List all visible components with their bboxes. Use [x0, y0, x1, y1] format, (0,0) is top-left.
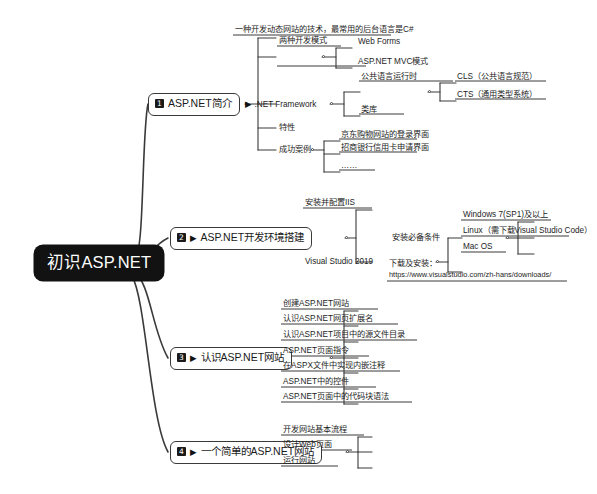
branch-number-badge: 4 [177, 447, 186, 456]
node-class-library[interactable]: 类库 [359, 104, 379, 116]
collapse-dot-clr[interactable] [428, 90, 431, 93]
node-download-install-url[interactable]: https://www.visualstudio.com/zh-hans/dow… [387, 270, 553, 281]
collapse-dot-success-cases[interactable] [311, 148, 314, 151]
node-download-install-label[interactable]: 下载及安装： [387, 258, 439, 270]
flag-icon: ▶ [190, 447, 197, 456]
branch-number-badge: 1 [155, 99, 164, 108]
node-design-web-page[interactable]: 设计Web页面 [281, 439, 334, 451]
branch-node-1[interactable]: 1 ASP.NET简介 [148, 93, 240, 116]
node-dotnet-framework[interactable]: ▶ .NET Framework [243, 99, 318, 111]
node-os-windows7[interactable]: Windows 7(SP1)及以上 [461, 209, 550, 221]
node-cls[interactable]: CLS（公共语言规范） [455, 71, 539, 83]
flag-icon: ▶ [190, 353, 197, 362]
node-ellipsis[interactable]: …… [339, 160, 359, 172]
node-aspnet-controls[interactable]: ASP.NET中的控件 [281, 376, 351, 388]
node-two-dev-modes[interactable]: 两种开发模式 [277, 35, 329, 47]
branch-number-badge: 3 [177, 353, 186, 362]
branch-number-badge: 2 [177, 233, 186, 242]
branch-node-3[interactable]: 3 ▶ 认识ASP.NET网站 [170, 347, 292, 370]
node-aspnet-mvc[interactable]: ASP.NET MVC模式 [356, 56, 430, 68]
node-jd-login-ui[interactable]: 京东购物网站的登录界面 [339, 129, 431, 141]
node-cts[interactable]: CTS（通用类型系统） [455, 89, 539, 101]
node-run-website[interactable]: 运行网站 [281, 455, 317, 467]
node-os-linux[interactable]: Linux（需下载Visual Studio Code） [461, 225, 594, 237]
collapse-dot-dotnet-framework[interactable] [330, 102, 333, 105]
node-features[interactable]: 特性 [277, 122, 297, 134]
node-os-macos[interactable]: Mac OS [461, 241, 495, 253]
root-node[interactable]: 初识ASP.NET [34, 245, 164, 281]
collapse-dot-branch-4[interactable] [346, 450, 349, 453]
node-success-cases[interactable]: 成功案例 [277, 144, 313, 156]
node-install-iis[interactable]: 安装并配置IIS [303, 197, 357, 209]
node-inline-comments[interactable]: 在ASPX文件中实现内嵌注释 [281, 360, 387, 372]
root-node-label: 初识ASP.NET [47, 253, 151, 271]
node-cmb-credit-card-ui[interactable]: 招商银行信用卡申请界面 [339, 142, 431, 154]
branch-node-1-label: ASP.NET简介 [168, 98, 232, 110]
node-clr[interactable]: 公共语言运行时 [359, 71, 419, 83]
flag-icon: ▶ [190, 233, 197, 242]
node-web-forms[interactable]: Web Forms [356, 36, 402, 48]
node-dev-basic-flow[interactable]: 开发网站基本流程 [281, 424, 349, 436]
node-prerequisites[interactable]: 安装必备条件 [390, 232, 442, 244]
collapse-dot-two-dev-modes[interactable] [322, 55, 325, 58]
node-project-source-dirs[interactable]: 认识ASP.NET项目中的源文件目录 [281, 329, 407, 341]
mindmap-canvas: 初识ASP.NET 1 ASP.NET简介 一种开发动态网站的技术，最常用的后台… [0, 0, 597, 494]
node-code-block-syntax[interactable]: ASP.NET页面中的代码块语法 [281, 391, 391, 403]
node-create-aspnet-site[interactable]: 创建ASP.NET网站 [281, 298, 351, 310]
branch-node-2[interactable]: 2 ▶ ASP.NET开发环境搭建 [170, 227, 312, 250]
flag-icon: ▶ [245, 100, 252, 109]
node-dotnet-framework-label: .NET Framework [255, 99, 317, 110]
branch-node-2-label: ASP.NET开发环境搭建 [201, 232, 305, 244]
branch-node-3-label: 认识ASP.NET网站 [201, 352, 285, 364]
collapse-dot-branch-2[interactable] [345, 236, 348, 239]
node-webpage-extensions[interactable]: 认识ASP.NET网页扩展名 [281, 313, 375, 325]
node-visual-studio-2019[interactable]: Visual Studio 2019 [303, 256, 375, 268]
node-page-directives[interactable]: ASP.NET页面指令 [281, 345, 351, 357]
